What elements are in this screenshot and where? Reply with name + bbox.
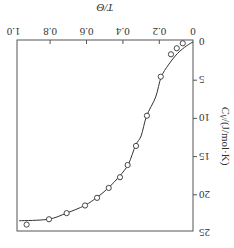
- data-point-marker: [174, 46, 179, 51]
- plot-frame: [17, 40, 193, 231]
- y-tick-label: 0: [199, 36, 205, 48]
- data-point-marker: [144, 113, 149, 118]
- model-curve: [19, 42, 193, 221]
- data-point-marker: [24, 222, 29, 227]
- heat-capacity-chart: 00.20.40.60.81.00510152025 T/Θ CV/(J/mol…: [0, 0, 234, 248]
- data-point-marker: [125, 162, 130, 167]
- x-tick-label: 0.2: [152, 26, 166, 38]
- data-point-marker: [180, 41, 185, 46]
- data-point-marker: [106, 185, 111, 190]
- y-tick-label: 25: [199, 227, 211, 239]
- x-tick-label: 0.4: [116, 26, 130, 38]
- y-tick-label: 15: [199, 151, 211, 163]
- data-points: [24, 41, 185, 227]
- y-tick-label: 5: [199, 74, 205, 86]
- data-point-marker: [117, 175, 122, 180]
- data-point-marker: [168, 52, 173, 57]
- data-point-marker: [94, 195, 99, 200]
- data-point-marker: [82, 203, 87, 208]
- y-tick-label: 10: [199, 112, 211, 124]
- y-tick-label: 20: [199, 189, 211, 201]
- data-point-marker: [133, 143, 138, 148]
- y-axis-title: CV/(J/mol·K): [218, 107, 232, 166]
- x-tick-label: 0: [190, 26, 196, 38]
- data-point-marker: [46, 217, 51, 222]
- x-tick-label: 0.6: [79, 26, 93, 38]
- x-tick-label: 1.0: [6, 26, 20, 38]
- data-point-marker: [64, 211, 69, 216]
- x-tick-label: 0.8: [43, 26, 57, 38]
- x-axis-title: T/Θ: [96, 2, 113, 14]
- axis-ticks: 00.20.40.60.81.00510152025: [6, 26, 210, 239]
- data-point-marker: [158, 74, 163, 79]
- rotated-chart: 00.20.40.60.81.00510152025 T/Θ CV/(J/mol…: [0, 0, 234, 248]
